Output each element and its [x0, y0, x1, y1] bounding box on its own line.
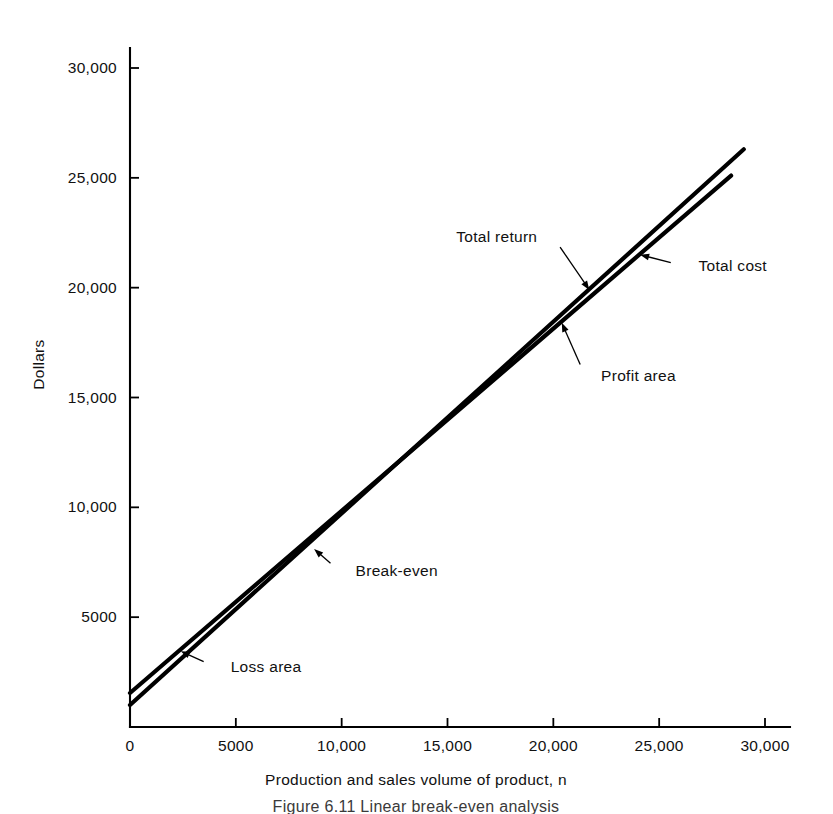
y-axis-title: Dollars [30, 339, 47, 389]
x-tick-label: 30,000 [740, 737, 789, 754]
annotation-label-break-even: Break-even [356, 562, 438, 579]
x-axis-ticks [236, 718, 765, 727]
annotation-label-profit-area: Profit area [601, 367, 676, 384]
x-tick-label: 15,000 [423, 737, 472, 754]
annotation-arrowhead-total-cost [640, 254, 650, 261]
x-tick-label: 10,000 [317, 737, 366, 754]
x-tick-label: 25,000 [635, 737, 684, 754]
series-line-total-cost [130, 176, 731, 693]
figure-caption: Figure 6.11 Linear break-even analysis [273, 798, 560, 814]
y-axis-tick-labels: 500010,00015,00020,00025,00030,000 [68, 59, 117, 625]
annotation-label-total-return: Total return [456, 228, 537, 245]
y-tick-label: 10,000 [68, 498, 117, 515]
annotation-arrowhead-total-return [581, 281, 589, 290]
axes-group [130, 48, 790, 727]
y-tick-label: 5000 [81, 608, 117, 625]
x-tick-label: 5000 [218, 737, 254, 754]
annotation-group: Total returnTotal costProfit areaBreak-e… [181, 228, 768, 674]
break-even-chart-figure: 500010,00015,00020,00025,00030,000 05000… [0, 0, 833, 814]
x-axis-tick-labels: 0500010,00015,00020,00025,00030,000 [126, 737, 790, 754]
x-axis-title: Production and sales volume of product, … [265, 771, 567, 788]
y-axis-ticks [130, 68, 139, 617]
y-tick-label: 25,000 [68, 169, 117, 186]
y-tick-label: 15,000 [68, 389, 117, 406]
y-tick-label: 30,000 [68, 59, 117, 76]
annotation-leader-total-return [560, 247, 586, 286]
annotation-leader-total-cost [645, 256, 671, 263]
annotation-leader-profit-area [564, 327, 580, 364]
x-tick-label: 20,000 [529, 737, 578, 754]
chart-canvas: 500010,00015,00020,00025,00030,000 05000… [0, 0, 833, 814]
annotation-label-total-cost: Total cost [699, 257, 768, 274]
annotation-label-loss-area: Loss area [231, 658, 302, 675]
data-series-group [130, 149, 744, 705]
annotation-arrowhead-profit-area [562, 323, 569, 333]
y-tick-label: 20,000 [68, 279, 117, 296]
x-tick-label: 0 [126, 737, 135, 754]
